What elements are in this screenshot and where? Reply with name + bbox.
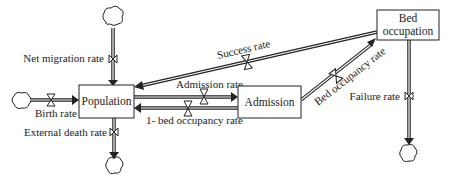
cloud-source-birth-icon — [12, 92, 31, 108]
net-migration-rate-label: Net migration rate — [23, 52, 104, 64]
admission-label: Admission — [245, 96, 295, 108]
stock-flow-diagram: Net migration rate Birth rate External d… — [0, 0, 453, 188]
population-label: Population — [82, 95, 132, 108]
flow-birth — [30, 94, 79, 106]
bed-occupation-label-line2: occupation — [383, 25, 434, 38]
one-minus-bed-occupancy-rate-label: 1- bed occupancy rate — [146, 114, 243, 126]
admission-rate-label: Admission rate — [176, 78, 243, 90]
failure-rate-label: Failure rate — [350, 90, 401, 102]
stock-bed-occupation: Bed occupation — [377, 10, 439, 40]
bed-occupation-label-line1: Bed — [399, 12, 418, 24]
cloud-sink-failure-icon — [400, 144, 417, 161]
stock-admission: Admission — [238, 86, 301, 118]
flow-failure-rate — [404, 40, 414, 145]
stock-population: Population — [79, 85, 134, 118]
cloud-source-migration-icon — [103, 6, 123, 25]
cloud-sink-death-icon — [106, 157, 123, 174]
flow-external-death — [109, 118, 119, 159]
external-death-rate-label: External death rate — [24, 126, 107, 138]
birth-rate-label: Birth rate — [35, 107, 77, 119]
flow-net-migration — [108, 28, 118, 86]
